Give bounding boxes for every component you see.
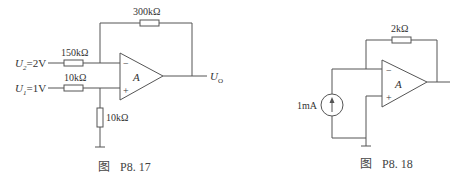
figure-p8-18: 2kΩ 1mA − + A 图P8. 18 — [297, 23, 450, 171]
feedback-resistor — [140, 20, 159, 26]
opamp-2-plus: + — [386, 92, 392, 103]
plus-input-wire — [366, 96, 382, 146]
opamp-2-minus: − — [386, 65, 392, 76]
ground-resistor — [97, 108, 103, 127]
input1-label: U1=1V — [15, 82, 46, 97]
feedback-resistor-label: 300kΩ — [133, 6, 160, 17]
input1-resistor — [64, 85, 83, 91]
ground-resistor-label: 10kΩ — [106, 112, 128, 123]
return-wire — [332, 116, 366, 138]
opamp-minus: − — [123, 58, 129, 69]
output-label: UO — [210, 70, 223, 85]
current-source-label: 1mA — [297, 100, 318, 111]
input2-label: U2=2V — [15, 57, 46, 72]
caption-p8-17: 图P8. 17 — [98, 160, 151, 174]
feedback-resistor-2-label: 2kΩ — [391, 23, 408, 34]
opamp-label: A — [132, 71, 140, 83]
circuit-diagrams: 300kΩ U2=2V 150kΩ U1=1V 10kΩ 10kΩ − + A … — [0, 0, 450, 183]
opamp-2-label: A — [394, 78, 402, 90]
figure-p8-17: 300kΩ U2=2V 150kΩ U1=1V 10kΩ 10kΩ − + A … — [15, 6, 223, 174]
feedback-resistor-2 — [392, 37, 411, 43]
input1-resistor-label: 10kΩ — [64, 72, 86, 83]
minus-input-wire — [332, 69, 382, 94]
input2-resistor — [64, 60, 83, 66]
opamp-plus: + — [123, 85, 129, 96]
input2-resistor-label: 150kΩ — [61, 47, 88, 58]
caption-p8-18: 图P8. 18 — [360, 157, 413, 171]
